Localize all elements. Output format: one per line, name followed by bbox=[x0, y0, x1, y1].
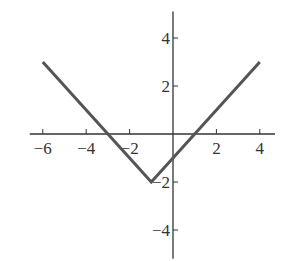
data-series bbox=[43, 62, 260, 182]
function-line bbox=[43, 62, 260, 182]
x-tick-label: 2 bbox=[212, 139, 221, 158]
y-tick-label: 4 bbox=[162, 29, 171, 48]
x-tick-label: −4 bbox=[77, 139, 96, 158]
y-tick-label: 2 bbox=[162, 77, 171, 96]
y-tick-label: −4 bbox=[152, 221, 171, 240]
y-tick-label: −2 bbox=[152, 173, 170, 192]
x-tick-label: −6 bbox=[34, 139, 52, 158]
x-tick-label: −2 bbox=[121, 139, 139, 158]
x-tick-label: 4 bbox=[256, 139, 265, 158]
chart: −6−4−22442−2−4 bbox=[0, 0, 295, 261]
